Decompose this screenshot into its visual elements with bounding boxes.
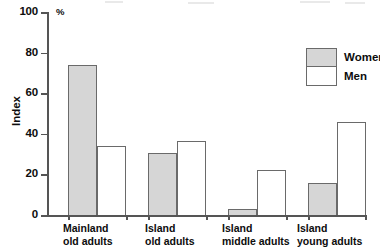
- y-tick-label-40: 40: [0, 127, 38, 139]
- y-tick-label-100: 100: [0, 5, 38, 17]
- bar-women-island-middle-adults: [228, 209, 257, 215]
- legend-label-men: Men: [344, 70, 367, 82]
- scan-artifact: [345, 2, 365, 4]
- category-line-1: Island: [145, 222, 175, 234]
- y-tick-label-20: 20: [0, 167, 38, 179]
- category-line-2: middle adults: [222, 235, 290, 248]
- category-line-2: old adults: [63, 235, 113, 248]
- x-category-label-island-old-adults: Island old adults: [145, 222, 195, 247]
- y-tick-mark: [41, 215, 47, 217]
- plot-area: [47, 12, 365, 215]
- bar-men-island-middle-adults: [257, 170, 286, 215]
- x-category-label-island-middle-adults: Island middle adults: [222, 222, 290, 247]
- bar-women-mainland-old-adults: [68, 65, 97, 215]
- category-line-2: young adults: [297, 235, 362, 248]
- scan-artifact: [188, 2, 214, 4]
- x-category-label-mainland-old-adults: Mainland old adults: [63, 222, 113, 247]
- x-tick-mark: [365, 215, 367, 220]
- x-tick-mark: [126, 215, 128, 220]
- bar-men-island-old-adults: [177, 141, 206, 215]
- x-tick-mark: [206, 215, 208, 220]
- scan-artifact: [300, 1, 330, 3]
- scan-artifact: [105, 1, 123, 3]
- x-tick-mark: [308, 215, 310, 220]
- y-tick-label-60: 60: [0, 86, 38, 98]
- bar-chart: Index % 100 80 60 40 20 0 Mainland old a…: [0, 0, 380, 250]
- category-line-1: Island: [222, 222, 252, 234]
- category-line-1: Island: [297, 222, 327, 234]
- x-tick-mark: [148, 215, 150, 220]
- bar-women-island-old-adults: [148, 153, 177, 215]
- legend-swatch-men: [306, 67, 337, 86]
- legend-label-women: Women: [344, 51, 380, 63]
- legend-swatch-women: [306, 48, 337, 67]
- bar-men-island-young-adults: [337, 122, 366, 215]
- category-line-1: Mainland: [63, 222, 109, 234]
- y-tick-label-0: 0: [0, 208, 38, 220]
- x-category-label-island-young-adults: Island young adults: [297, 222, 362, 247]
- category-line-2: old adults: [145, 235, 195, 248]
- bar-men-mainland-old-adults: [97, 146, 126, 215]
- y-tick-label-80: 80: [0, 46, 38, 58]
- bar-women-island-young-adults: [308, 183, 337, 216]
- x-tick-mark: [68, 215, 70, 220]
- x-tick-mark: [228, 215, 230, 220]
- x-tick-mark: [286, 215, 288, 220]
